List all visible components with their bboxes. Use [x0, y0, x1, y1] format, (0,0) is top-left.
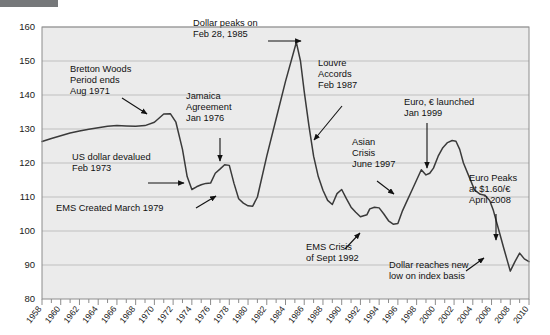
svg-text:Aug 1971: Aug 1971 — [70, 86, 110, 96]
svg-text:1980: 1980 — [230, 304, 250, 325]
svg-text:Bretton Woods: Bretton Woods — [70, 64, 132, 74]
svg-text:Jan 1976: Jan 1976 — [186, 113, 224, 123]
svg-text:1964: 1964 — [80, 304, 100, 325]
svg-text:1966: 1966 — [99, 304, 119, 325]
svg-text:Agreement: Agreement — [186, 102, 232, 112]
svg-text:1984: 1984 — [267, 304, 287, 325]
svg-text:Crisis: Crisis — [352, 148, 376, 158]
svg-text:Jamaica: Jamaica — [186, 91, 221, 101]
svg-text:120: 120 — [19, 157, 35, 168]
svg-text:Asian: Asian — [352, 137, 375, 147]
svg-text:130: 130 — [19, 123, 35, 134]
svg-text:Dollar reaches new: Dollar reaches new — [389, 260, 469, 270]
svg-text:1960: 1960 — [43, 304, 63, 325]
svg-text:1968: 1968 — [118, 304, 138, 325]
svg-text:Feb 28, 1985: Feb 28, 1985 — [193, 29, 248, 39]
svg-text:1972: 1972 — [155, 304, 175, 325]
svg-text:1986: 1986 — [286, 304, 306, 325]
svg-text:Period ends: Period ends — [70, 75, 120, 85]
svg-text:1994: 1994 — [361, 304, 381, 325]
svg-text:April 2008: April 2008 — [469, 195, 511, 205]
dollar-index-chart: 8090100110120130140150160 19581960196219… — [0, 0, 550, 335]
chart-figure: 8090100110120130140150160 19581960196219… — [0, 0, 550, 335]
svg-text:Euro Peaks: Euro Peaks — [469, 173, 517, 183]
svg-text:Accords: Accords — [318, 69, 352, 79]
svg-text:1990: 1990 — [324, 304, 344, 325]
svg-text:2010: 2010 — [511, 304, 531, 325]
svg-text:Feb 1973: Feb 1973 — [72, 163, 111, 173]
svg-text:1988: 1988 — [305, 304, 325, 325]
chart-svg: 8090100110120130140150160 19581960196219… — [0, 0, 550, 335]
svg-text:1998: 1998 — [399, 304, 419, 325]
svg-text:140: 140 — [19, 89, 35, 100]
svg-text:Feb 1987: Feb 1987 — [318, 80, 357, 90]
svg-text:2000: 2000 — [417, 304, 437, 325]
svg-text:EMS Created March 1979: EMS Created March 1979 — [56, 203, 163, 213]
svg-text:2008: 2008 — [492, 304, 512, 325]
svg-text:June 1997: June 1997 — [352, 159, 395, 169]
svg-text:1978: 1978 — [211, 304, 231, 325]
svg-text:160: 160 — [19, 21, 35, 32]
svg-text:1962: 1962 — [61, 304, 81, 325]
svg-text:90: 90 — [24, 259, 35, 270]
svg-text:US dollar devalued: US dollar devalued — [72, 152, 151, 162]
svg-text:at $1.60/€: at $1.60/€ — [469, 184, 511, 194]
svg-text:1976: 1976 — [192, 304, 212, 325]
x-axis-tick-labels: 1958196019621964196619681970197219741976… — [24, 304, 531, 325]
svg-text:1996: 1996 — [380, 304, 400, 325]
svg-text:2004: 2004 — [455, 304, 475, 325]
svg-text:Jan 1999: Jan 1999 — [404, 108, 442, 118]
svg-text:Euro, € launched: Euro, € launched — [404, 97, 474, 107]
svg-text:2006: 2006 — [473, 304, 493, 325]
svg-text:2002: 2002 — [436, 304, 456, 325]
x-axis-tick-marks — [42, 299, 529, 305]
svg-text:of Sept 1992: of Sept 1992 — [306, 253, 359, 263]
y-axis-tick-labels: 8090100110120130140150160 — [19, 21, 35, 304]
svg-text:EMS Crisis: EMS Crisis — [306, 242, 352, 252]
svg-text:1970: 1970 — [136, 304, 156, 325]
svg-text:1958: 1958 — [24, 304, 44, 325]
svg-text:1982: 1982 — [249, 304, 269, 325]
svg-text:1992: 1992 — [342, 304, 362, 325]
svg-text:80: 80 — [24, 293, 35, 304]
svg-text:low on index basis: low on index basis — [389, 271, 465, 281]
svg-text:1974: 1974 — [174, 304, 194, 325]
svg-text:150: 150 — [19, 55, 35, 66]
svg-text:Louvre: Louvre — [318, 58, 346, 68]
svg-text:100: 100 — [19, 225, 35, 236]
svg-text:110: 110 — [20, 191, 35, 202]
